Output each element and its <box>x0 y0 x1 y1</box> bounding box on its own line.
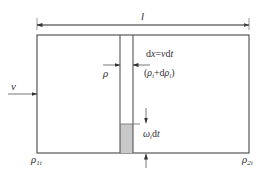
settling-label: ωidt <box>143 129 160 140</box>
fluid-column <box>120 35 140 153</box>
settling-channel-diagram <box>0 0 263 178</box>
velocity-label: v <box>11 81 16 92</box>
density-right-label: (ρi+dρi) <box>144 68 175 79</box>
settled-layer <box>120 124 133 153</box>
outlet-density-label: ρ2i <box>242 154 253 167</box>
displacement-label: dx=vdt <box>146 49 173 59</box>
density-left-label: ρ <box>103 68 108 79</box>
inlet-density-label: ρ1i <box>31 154 42 167</box>
length-label: l <box>141 11 144 22</box>
